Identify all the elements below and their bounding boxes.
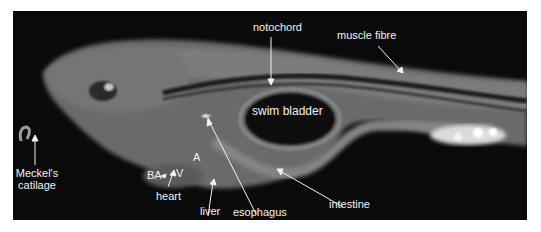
label-esophagus: esophagus <box>233 206 287 218</box>
label-liver: liver <box>200 205 220 217</box>
label-swim-bladder: swim bladder <box>252 105 323 117</box>
label-heart: heart <box>156 190 181 202</box>
label-meckels-cartilage: Meckel's catilage <box>15 167 59 191</box>
label-meckels-line1: Meckel's <box>15 167 59 179</box>
label-muscle-fibre: muscle fibre <box>337 29 396 41</box>
label-bulbus-arteriosus: BA <box>147 169 162 181</box>
label-atrium: A <box>193 151 200 163</box>
specimen-image: notochord muscle fibre swim bladder Meck… <box>13 11 527 220</box>
label-notochord: notochord <box>253 21 302 33</box>
label-meckels-line2: catilage <box>15 179 59 191</box>
label-ventricle: V <box>176 167 183 179</box>
label-intestine: intestine <box>329 198 370 210</box>
